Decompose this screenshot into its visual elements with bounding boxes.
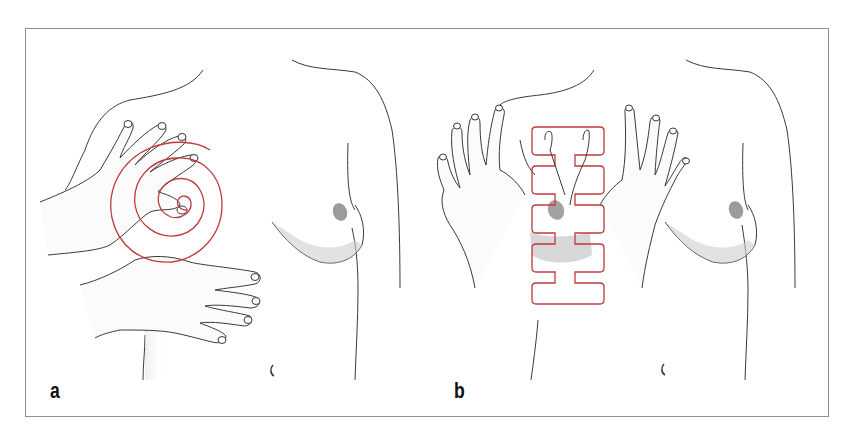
nipple-left-b: [545, 198, 567, 222]
vertical-strip-palpation-pattern: [532, 127, 604, 304]
breast-shading: [272, 222, 362, 263]
panel-label-b: b: [454, 378, 465, 404]
panel-label-a: a: [50, 378, 60, 404]
panel-b-right-hand: [600, 105, 690, 288]
nipple-right: [330, 201, 349, 223]
panel-b-left-hand: [437, 105, 535, 288]
nipple-right-b: [726, 199, 745, 221]
panel-a-lower-hand: [80, 256, 260, 343]
illustration: [0, 0, 862, 445]
left-breast-shading: [530, 232, 592, 263]
